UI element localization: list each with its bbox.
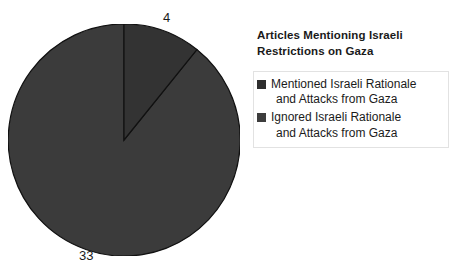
- chart-title: Articles Mentioning Israeli Restrictions…: [257, 27, 449, 60]
- legend-swatch-icon-ignored: [257, 113, 266, 122]
- pie-chart-figure: 4 33 Articles Mentioning Israeli Restric…: [0, 0, 458, 277]
- pie-data-label-large-slice: 33: [79, 249, 93, 262]
- legend-item-ignored[interactable]: Ignored Israeli Rationale and Attacks fr…: [257, 110, 444, 141]
- pie-slices: [8, 24, 240, 256]
- pie-data-label-small-slice: 4: [163, 11, 170, 24]
- chart-title-line-2: Restrictions on Gaza: [257, 43, 449, 59]
- chart-title-line-1: Articles Mentioning Israeli: [257, 27, 449, 43]
- legend-label-ignored-line-1: Ignored Israeli Rationale: [271, 110, 401, 124]
- legend-panel: Articles Mentioning Israeli Restrictions…: [253, 27, 449, 148]
- legend-swatch-icon-mentioned: [257, 80, 266, 89]
- legend-label-ignored-line-2: and Attacks from Gaza: [271, 126, 401, 141]
- pie-chart-plot-area: 4 33: [0, 0, 250, 277]
- legend-label-mentioned-line-2: and Attacks from Gaza: [271, 92, 416, 107]
- legend-label-mentioned-line-1: Mentioned Israeli Rationale: [271, 77, 416, 91]
- legend-label-mentioned: Mentioned Israeli Rationale and Attacks …: [271, 77, 416, 108]
- legend-item-mentioned[interactable]: Mentioned Israeli Rationale and Attacks …: [257, 77, 444, 108]
- pie-graphic: [8, 24, 240, 256]
- legend-box: Mentioned Israeli Rationale and Attacks …: [253, 71, 449, 148]
- legend-label-ignored: Ignored Israeli Rationale and Attacks fr…: [271, 110, 401, 141]
